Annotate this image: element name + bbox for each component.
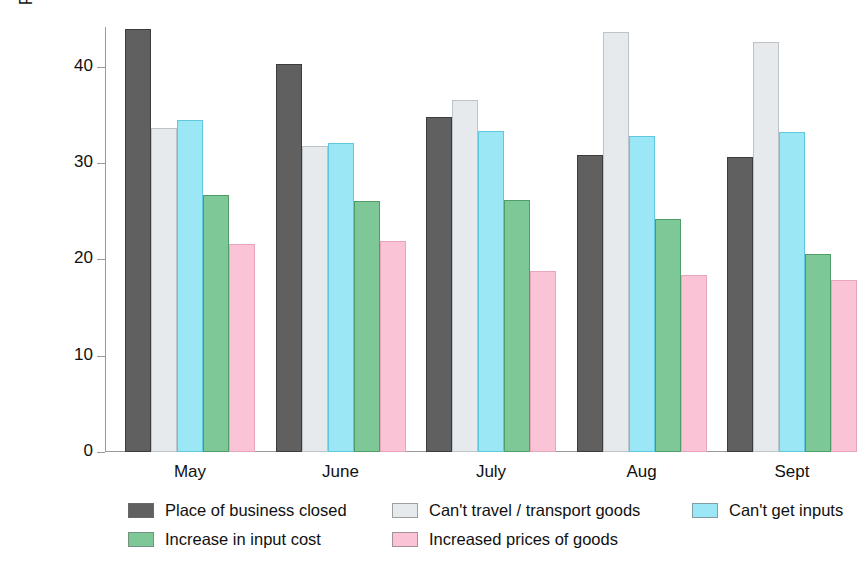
bar[interactable] [753,42,779,452]
y-tick-mark [97,356,105,357]
legend-item-place-of-business-closed[interactable]: Place of business closed [128,499,347,521]
bar[interactable] [831,280,857,452]
y-tick-mark [97,452,105,453]
legend-label-increase-in-input-cost: Increase in input cost [165,528,321,550]
legend-label-cant-get-inputs: Can't get inputs [729,499,843,521]
bar[interactable] [577,155,603,452]
legend-swatch-place-of-business-closed [128,503,154,518]
bar[interactable] [203,195,229,452]
bar-group-july [426,28,556,452]
y-axis-title: Percentage of hhs reporting [10,0,42,94]
legend-row-second: Increase in input cost Increased prices … [128,528,848,554]
legend-swatch-increase-in-input-cost [128,532,154,547]
plot-area: 010203040 MayJuneJulyAugSept [105,28,842,452]
bar[interactable] [727,157,753,452]
legend-label-place-of-business-closed: Place of business closed [165,499,347,521]
bar[interactable] [504,200,530,452]
x-axis-label-sept: Sept [717,462,861,482]
bar[interactable] [426,117,452,452]
y-tick-label: 20 [74,248,93,268]
y-tick-mark [97,67,105,68]
bar-group-aug [577,28,707,452]
legend-item-increased-prices-of-goods[interactable]: Increased prices of goods [392,528,618,550]
bar[interactable] [681,275,707,452]
y-tick-label: 10 [74,345,93,365]
bar[interactable] [125,29,151,452]
bar[interactable] [530,271,556,452]
legend-item-increase-in-input-cost[interactable]: Increase in input cost [128,528,321,550]
bar[interactable] [302,146,328,452]
bar[interactable] [328,143,354,452]
legend-swatch-increased-prices-of-goods [392,532,418,547]
x-axis-label-may: May [115,462,265,482]
y-tick-label: 0 [84,441,93,461]
x-axis-label-aug: Aug [567,462,717,482]
legend-item-cant-get-inputs[interactable]: Can't get inputs [692,499,843,521]
legend-row-first: Place of business closed Can't travel / … [128,499,848,525]
bar[interactable] [229,244,255,452]
bar[interactable] [380,241,406,452]
x-axis-label-july: July [416,462,566,482]
y-tick-label: 30 [74,152,93,172]
bar[interactable] [354,201,380,453]
bar-group-may [125,28,255,452]
chart-legend: Place of business closed Can't travel / … [128,499,848,559]
bar[interactable] [629,136,655,452]
x-axis-label-june: June [266,462,416,482]
legend-swatch-cant-get-inputs [692,503,718,518]
bar-group-sept [727,28,857,452]
y-tick-label: 40 [74,56,93,76]
legend-label-cant-travel-transport-goods: Can't travel / transport goods [429,499,640,521]
y-tick-mark [97,259,105,260]
bar[interactable] [779,132,805,452]
bar-group-june [276,28,406,452]
bar[interactable] [805,254,831,452]
legend-item-cant-travel-transport-goods[interactable]: Can't travel / transport goods [392,499,640,521]
bar[interactable] [452,100,478,452]
bar[interactable] [603,32,629,452]
bar[interactable] [655,219,681,452]
bar[interactable] [151,128,177,452]
y-axis-line [105,27,106,452]
y-tick-mark [97,163,105,164]
bar[interactable] [478,131,504,452]
bar[interactable] [276,64,302,452]
legend-label-increased-prices-of-goods: Increased prices of goods [429,528,618,550]
bar[interactable] [177,120,203,452]
legend-swatch-cant-travel-transport-goods [392,503,418,518]
